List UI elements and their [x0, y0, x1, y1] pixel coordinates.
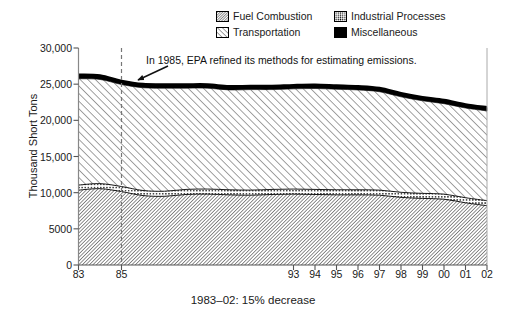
x-tick-label: 99: [417, 268, 429, 280]
x-tick-label: 02: [481, 268, 493, 280]
x-tick-label: 93: [288, 268, 300, 280]
x-tick-label: 85: [116, 268, 128, 280]
annotation-text: In 1985, EPA refined its methods for est…: [146, 54, 417, 66]
stacked-area-layers: [79, 75, 488, 265]
chart-caption: 1983–02: 15% decrease: [0, 294, 506, 306]
y-axis-tick-marks: [74, 48, 79, 265]
x-tick-label: 94: [309, 268, 321, 280]
area-fuel-combustion: [79, 189, 488, 265]
x-axis-tick-labels: 838593949596979899000102: [0, 268, 506, 284]
x-tick-label: 95: [331, 268, 343, 280]
annotation-arrow-icon: [138, 66, 168, 80]
x-tick-label: 96: [352, 268, 364, 280]
x-tick-label: 98: [395, 268, 407, 280]
x-tick-label: 00: [438, 268, 450, 280]
x-tick-label: 83: [73, 268, 85, 280]
x-tick-label: 01: [460, 268, 472, 280]
x-tick-label: 97: [374, 268, 386, 280]
emissions-trend-chart: Fuel Combustion Industrial Processes: [0, 0, 506, 315]
